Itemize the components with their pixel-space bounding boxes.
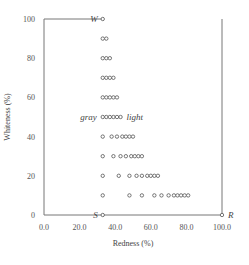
x-tick-label: 20.0	[73, 223, 87, 232]
data-point	[105, 96, 108, 99]
data-point	[101, 115, 104, 118]
data-point	[128, 194, 131, 197]
data-point	[119, 115, 122, 118]
data-point	[115, 135, 118, 138]
data-point	[176, 194, 179, 197]
data-point	[105, 37, 108, 40]
data-point	[115, 96, 118, 99]
data-point	[101, 213, 104, 216]
data-point	[101, 155, 104, 158]
x-tick-label: 60.0	[144, 223, 158, 232]
y-axis-label: Whiteness (%)	[3, 93, 12, 141]
data-point	[108, 96, 111, 99]
data-point	[133, 155, 136, 158]
data-point	[128, 135, 131, 138]
data-point	[110, 135, 113, 138]
y-tick-label: 80	[27, 54, 35, 63]
annotation-light: light	[127, 112, 144, 122]
data-point	[112, 115, 115, 118]
data-point	[124, 135, 127, 138]
data-point	[179, 194, 182, 197]
x-tick-label: 40.0	[108, 223, 122, 232]
data-points	[101, 17, 224, 216]
data-point	[108, 57, 111, 60]
data-point	[112, 96, 115, 99]
data-point	[101, 57, 104, 60]
x-tick-label: 80.0	[179, 223, 193, 232]
data-point	[101, 135, 104, 138]
data-point	[186, 194, 189, 197]
data-point	[149, 174, 152, 177]
data-point	[140, 174, 143, 177]
data-point	[101, 76, 104, 79]
data-point	[105, 115, 108, 118]
x-tick-labels: 0.020.040.060.080.0100.0	[39, 223, 231, 232]
data-point	[131, 135, 134, 138]
y-tick-label: 20	[27, 172, 35, 181]
data-point	[153, 194, 156, 197]
data-point	[115, 115, 118, 118]
x-tick-label: 0.0	[39, 223, 49, 232]
data-point	[153, 174, 156, 177]
data-point	[220, 213, 223, 216]
annotation-gray: gray	[80, 112, 97, 122]
y-tick-labels: 020406080100	[23, 15, 35, 220]
data-point	[140, 155, 143, 158]
data-point	[117, 174, 120, 177]
data-point	[156, 174, 159, 177]
data-point	[160, 194, 163, 197]
y-tick-label: 40	[27, 133, 35, 142]
data-point	[101, 37, 104, 40]
data-point	[101, 194, 104, 197]
data-point	[135, 174, 138, 177]
data-point	[112, 155, 115, 158]
data-point	[108, 115, 111, 118]
data-point	[172, 194, 175, 197]
x-axis-label: Redness (%)	[113, 239, 154, 248]
data-point	[101, 96, 104, 99]
data-point	[137, 155, 140, 158]
data-point	[128, 174, 131, 177]
data-point	[108, 76, 111, 79]
y-tick-label: 60	[27, 93, 35, 102]
data-point	[119, 155, 122, 158]
scatter-chart: 020406080100 0.020.040.060.080.0100.0 WS…	[0, 0, 249, 265]
data-point	[112, 76, 115, 79]
data-point	[140, 194, 143, 197]
y-tick-label: 100	[23, 15, 35, 24]
data-point	[146, 174, 149, 177]
data-point	[105, 76, 108, 79]
x-tick-label: 100.0	[213, 223, 231, 232]
data-point	[130, 155, 133, 158]
annotation-S: S	[93, 210, 98, 220]
data-point	[167, 194, 170, 197]
data-point	[183, 194, 186, 197]
annotation-R: R	[227, 210, 234, 220]
data-point	[101, 174, 104, 177]
y-tick-label: 0	[31, 211, 35, 220]
data-point	[101, 17, 104, 20]
data-point	[124, 155, 127, 158]
data-point	[121, 135, 124, 138]
data-point	[105, 57, 108, 60]
